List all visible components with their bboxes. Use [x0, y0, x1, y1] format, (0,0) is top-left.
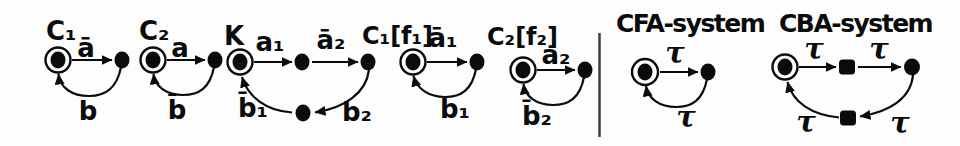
automaton-c1-title: C₁ — [46, 16, 76, 46]
initial-state-node — [51, 52, 66, 69]
automaton-k-title: K — [224, 21, 245, 51]
automaton-c2f2: C₂[f₂] a₂ b̄₂ — [487, 23, 593, 131]
back-transition-label: b̄ — [168, 93, 187, 125]
initial-state-node — [778, 59, 793, 76]
state-node — [904, 59, 920, 76]
automata-figure: C₁ ā b C₂ a b̄ K a₁ ā₂ b₂ b̄₁ C — [0, 0, 960, 146]
back-transition-label: τ — [676, 100, 696, 134]
forward-transition-label: ā₁ — [429, 23, 458, 53]
state-node — [839, 60, 855, 75]
back-right-transition-label: b₂ — [342, 97, 372, 127]
automaton-c1f1: C₁[f₁] ā₁ b₁ — [362, 22, 485, 124]
back-transition-arrow — [414, 69, 477, 97]
back-transition-arrow — [154, 67, 215, 95]
initial-state-node — [146, 52, 161, 69]
forward1-transition-label: τ — [804, 32, 824, 66]
back-transition-label: b₁ — [440, 94, 470, 124]
forward1-transition-label: a₁ — [256, 27, 285, 57]
back-transition-arrow — [59, 67, 122, 96]
state-node — [578, 62, 593, 79]
back-left-transition-label: b̄₁ — [238, 91, 268, 123]
forward-transition-label: τ — [665, 36, 685, 70]
back-right-transition-label: τ — [890, 106, 910, 140]
initial-state-node — [516, 62, 531, 79]
state-node — [470, 54, 485, 71]
back-transition-label: b̄₂ — [522, 99, 552, 131]
back-left-transition-label: τ — [796, 105, 816, 139]
state-node — [208, 52, 223, 69]
automaton-c2: C₂ a b̄ — [139, 16, 223, 125]
forward-transition-label: ā — [77, 33, 95, 63]
state-node — [295, 54, 310, 71]
cfa-system-title: CFA-system — [616, 9, 765, 38]
forward-transition-label: a — [171, 33, 189, 63]
back-transition-label: b — [79, 96, 98, 126]
automaton-cfa-system: CFA-system τ τ — [616, 9, 765, 134]
state-node-bottom — [840, 111, 856, 126]
forward-transition-label: a₂ — [542, 40, 571, 70]
state-node — [361, 54, 376, 71]
initial-state-node — [233, 54, 248, 71]
initial-state-node — [638, 64, 653, 81]
cba-system-title: CBA-system — [779, 9, 933, 38]
forward2-transition-label: τ — [869, 32, 889, 66]
automaton-c1f1-title: C₁[f₁] — [362, 22, 433, 50]
state-node — [701, 64, 716, 81]
automaton-cba-system: CBA-system τ τ τ τ — [773, 9, 933, 140]
state-node-bottom — [296, 105, 311, 122]
automaton-c2-title: C₂ — [139, 16, 169, 46]
automaton-k: K a₁ ā₂ b₂ b̄₁ — [224, 21, 376, 127]
automaton-c1: C₁ ā b — [46, 16, 130, 126]
forward2-transition-label: ā₂ — [317, 25, 346, 55]
initial-state-node — [406, 54, 421, 71]
state-node — [115, 52, 130, 69]
